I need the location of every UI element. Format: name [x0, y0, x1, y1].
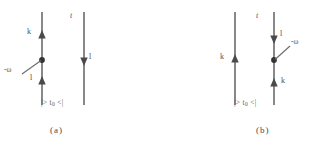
momentum-label-k-left: k	[27, 28, 31, 36]
photon-energy-label: -ω	[291, 38, 298, 46]
state-suffix: <|	[55, 98, 64, 107]
arrowhead-down-l	[80, 58, 87, 67]
panel-a-graphics	[0, 0, 158, 149]
arrowhead-up-k-lower	[270, 78, 277, 87]
photon-line	[275, 46, 290, 60]
momentum-label-l-right: l	[280, 30, 282, 38]
panel-caption-a: (a)	[50, 125, 63, 135]
state-prefix: |> t	[41, 98, 52, 107]
diagram-panel-a: t k l l -ω |> t0 <| (a)	[0, 0, 158, 149]
momentum-label-k-left: k	[220, 53, 224, 61]
panel-b-graphics	[158, 0, 316, 149]
momentum-label-l-right: l	[89, 53, 91, 61]
vertex-dot	[39, 57, 45, 63]
arrowhead-up-k	[38, 30, 45, 39]
time-axis-label: t	[256, 12, 258, 20]
photon-line	[22, 61, 41, 75]
initial-state-label: |> t0 <|	[41, 99, 63, 107]
momentum-label-k-right: k	[281, 77, 285, 85]
diagram-panel-b: t k l k -ω |> t0 <| (b)	[158, 0, 316, 149]
initial-state-label: |> t0 <|	[234, 99, 256, 107]
arrowhead-down-l	[270, 36, 277, 45]
arrowhead-up-k	[231, 54, 238, 63]
state-prefix: |> t	[234, 98, 245, 107]
panel-caption-b: (b)	[256, 125, 270, 135]
arrowhead-up-l	[38, 76, 45, 85]
momentum-label-l-left: l	[30, 74, 32, 82]
time-axis-label: t	[70, 12, 72, 20]
figure-root: t k l l -ω |> t0 <| (a) t k l k	[0, 0, 316, 149]
state-suffix: <|	[248, 98, 257, 107]
photon-energy-label: -ω	[4, 66, 11, 74]
